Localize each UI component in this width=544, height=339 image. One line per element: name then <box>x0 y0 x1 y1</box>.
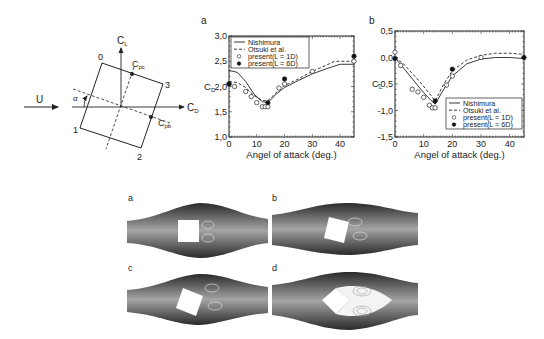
x-tick-label: 20 <box>280 139 290 149</box>
streamline-panel-c <box>127 274 268 325</box>
series-marker <box>277 86 281 90</box>
chart-legend: NishimuraOtsuki et al.present(L = 1D)pre… <box>446 98 522 129</box>
x-tick-label: 20 <box>447 139 457 149</box>
series-marker <box>522 55 526 59</box>
angle-arc-icon <box>84 96 87 107</box>
flow-label: U <box>36 94 43 105</box>
y-tick-label: 1,5 <box>214 107 227 117</box>
series-marker <box>232 84 236 88</box>
normal-dashed-line <box>106 67 134 149</box>
series-marker <box>399 63 403 67</box>
x-axis-label: Angel of attack (deg.) <box>246 149 336 160</box>
series-marker <box>444 83 448 87</box>
series-marker <box>249 94 253 98</box>
cpc-point <box>130 72 134 76</box>
cpb-point <box>149 115 153 119</box>
series-marker <box>450 74 454 78</box>
drag-axis-label: CD <box>187 102 199 114</box>
x-tick-label: 40 <box>505 139 515 149</box>
y-tick-label: 3,0 <box>214 31 227 41</box>
legend-entry: present(L = 6D) <box>248 59 298 68</box>
streamline-d-label: d <box>272 263 277 273</box>
streamline-c-label: c <box>128 263 133 273</box>
series-marker <box>282 77 286 81</box>
angle-label: α <box>73 94 78 103</box>
drag-coefficient-chart: a 0102030401,01,52,02,53,0Angel of attac… <box>201 15 356 160</box>
corner-0-label: 0 <box>98 52 103 62</box>
y-tick-label: 2,0 <box>214 82 227 92</box>
series-marker <box>421 95 425 99</box>
streamline-b-label: b <box>272 193 277 203</box>
series-marker <box>393 50 397 54</box>
series-marker <box>352 59 356 63</box>
y-tick-label: -1,5 <box>377 132 393 142</box>
x-tick-label: 30 <box>476 139 486 149</box>
series-marker <box>410 87 414 91</box>
cpb-label: Cpb <box>158 118 172 129</box>
streamline-panel-b <box>272 203 418 255</box>
streamline-a-label: a <box>128 193 133 203</box>
streamline-panel-a <box>127 203 268 258</box>
series-marker <box>479 55 483 59</box>
lift-axis-label: CL <box>117 35 128 47</box>
series-marker <box>433 106 437 110</box>
x-tick-label: 40 <box>335 139 345 149</box>
streamline-panels: a b c d <box>127 193 418 330</box>
chart-legend: NishimuraOtsuki et al.present(L = 1D)pre… <box>231 37 309 68</box>
series-marker <box>450 67 454 71</box>
corner-3-label: 3 <box>165 80 170 90</box>
corner-2-label: 2 <box>137 152 142 162</box>
corner-1-label: 1 <box>73 125 78 135</box>
x-tick-label: 0 <box>226 139 231 149</box>
series-marker <box>255 100 259 104</box>
x-tick-label: 30 <box>307 139 317 149</box>
y-tick-label: 2,5 <box>214 56 227 66</box>
series-line <box>229 64 354 102</box>
x-tick-label: 0 <box>392 139 397 149</box>
cpc-label: Cpc <box>132 59 145 70</box>
square-cylinder-diagram: U α CL CD Cpc Cpb 0 1 2 3 <box>24 35 199 162</box>
series-marker <box>416 90 420 94</box>
square-body <box>80 63 163 148</box>
y-tick-label: 0,5 <box>380 26 393 36</box>
y-tick-label: 0,0 <box>380 53 393 63</box>
square-cylinder-a <box>178 220 199 242</box>
chart-a-panel-label: a <box>201 15 207 26</box>
series-marker <box>352 54 356 58</box>
legend-entry: present(L = 6D) <box>463 120 513 129</box>
series-line <box>395 58 524 105</box>
y-tick-label: 1,0 <box>214 132 227 142</box>
figure: U α CL CD Cpc Cpb 0 1 2 3 a 0102030401,0… <box>0 0 544 339</box>
series-marker <box>243 89 247 93</box>
series-marker <box>310 69 314 73</box>
x-axis-label: Angel of attack (deg.) <box>414 149 504 160</box>
lift-coefficient-chart: b 010203040-1,5-1,0-0,50,00,5Angel of at… <box>369 15 526 160</box>
series-marker <box>266 100 270 104</box>
y-tick-label: -1,0 <box>377 106 393 116</box>
x-tick-label: 10 <box>252 139 262 149</box>
series-line <box>395 53 524 101</box>
x-tick-label: 10 <box>419 139 429 149</box>
chart-b-panel-label: b <box>369 15 375 26</box>
series-marker <box>433 99 437 103</box>
series-marker <box>227 82 231 86</box>
series-marker <box>282 82 286 86</box>
streamline-panel-d <box>272 272 418 330</box>
series-marker <box>393 56 397 60</box>
